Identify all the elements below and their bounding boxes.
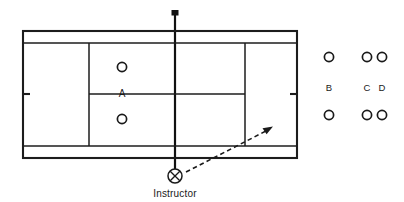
instructor-marker-group: [168, 169, 182, 183]
tennis-court-diagram: A B C D Instructor: [0, 0, 404, 202]
group-d-label: D: [379, 82, 386, 93]
court-diagram-canvas: A B C D Instructor: [0, 0, 404, 202]
player-label-a: A: [119, 88, 126, 99]
group-d-marker-bottom: [377, 110, 386, 119]
instructor-label: Instructor: [153, 188, 197, 199]
player-marker-top: [117, 62, 126, 71]
group-b-marker-bottom: [324, 110, 333, 119]
group-d-marker-top: [377, 52, 386, 61]
group-b-label: B: [326, 82, 332, 93]
net-line-group: [172, 10, 179, 176]
player-marker-bottom: [117, 114, 126, 123]
group-c-label: C: [364, 82, 371, 93]
group-c-marker-top: [362, 52, 371, 61]
arrow-head-icon: [263, 127, 274, 135]
group-c-marker-bottom: [362, 110, 371, 119]
net-top-cap-icon: [172, 10, 179, 16]
group-b-marker-top: [324, 52, 333, 61]
feed-arrow-group: [186, 127, 273, 173]
dashed-arrow-icon: [186, 131, 266, 172]
